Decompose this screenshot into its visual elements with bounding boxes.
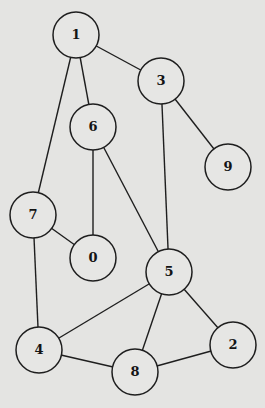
node-0-label: 0 <box>78 248 108 268</box>
node-2-label: 2 <box>218 335 248 355</box>
node-7-label: 7 <box>18 205 48 225</box>
node-5-label: 5 <box>154 262 184 282</box>
graph-canvas: 1369705428 <box>0 0 265 408</box>
node-3-label: 3 <box>146 71 176 91</box>
node-9-label: 9 <box>213 157 243 177</box>
node-1-label: 1 <box>61 25 91 45</box>
node-6-label: 6 <box>78 117 108 137</box>
node-4-label: 4 <box>24 340 54 360</box>
edge-3-5 <box>161 81 169 272</box>
node-8-label: 8 <box>120 362 150 382</box>
edges-layer <box>33 35 233 372</box>
